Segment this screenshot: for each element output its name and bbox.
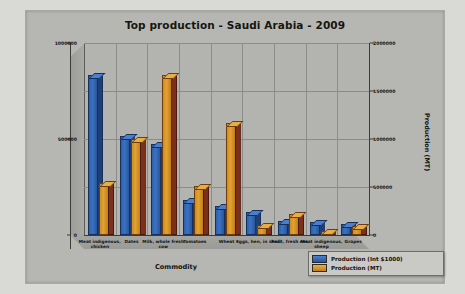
y-tick-label-left: 1000000 xyxy=(55,41,77,46)
bar[interactable] xyxy=(246,214,255,235)
bar[interactable] xyxy=(131,141,140,235)
bar[interactable] xyxy=(183,202,192,235)
bar-side-face xyxy=(108,183,114,235)
y-tick-mark-left xyxy=(67,235,71,236)
bar[interactable] xyxy=(289,216,298,235)
bar-top-face xyxy=(88,73,106,79)
y-tick-label-right: 1000000 xyxy=(373,137,395,142)
y-tick-label-right: 1500000 xyxy=(373,89,395,94)
bar-top-face xyxy=(289,212,307,218)
x-tick-label: Grapes xyxy=(330,239,376,244)
legend-label-series-1: Production (MT) xyxy=(331,265,382,271)
bar[interactable] xyxy=(99,185,108,235)
bar-side-face xyxy=(140,139,146,235)
bar[interactable] xyxy=(352,228,361,235)
bar-side-face xyxy=(171,75,177,235)
plot-area: 05000001000000 0500000100000015000002000… xyxy=(84,43,369,235)
bar-top-face xyxy=(246,210,264,216)
bar[interactable] xyxy=(257,227,266,235)
y-tick-label-right: 2000000 xyxy=(373,41,395,46)
legend-swatch-blue-icon xyxy=(312,255,327,263)
bar[interactable] xyxy=(215,208,224,235)
bar-side-face xyxy=(203,186,209,235)
y-axis-left-line xyxy=(70,43,71,249)
bar-group xyxy=(116,43,148,235)
y-tick-label-left: 500000 xyxy=(58,137,77,142)
legend-item-series-1[interactable]: Production (MT) xyxy=(312,264,440,272)
bar[interactable] xyxy=(120,138,129,235)
bar[interactable] xyxy=(341,226,350,235)
legend-item-series-0[interactable]: Production (Int $1000) xyxy=(312,255,440,263)
bar-group xyxy=(147,43,179,235)
bar-group xyxy=(84,43,116,235)
bar[interactable] xyxy=(310,224,319,235)
bar[interactable] xyxy=(226,125,235,235)
bar-top-face xyxy=(310,220,328,226)
bar-group xyxy=(337,43,369,235)
legend-label-series-0: Production (Int $1000) xyxy=(331,256,403,262)
x-axis-title: Commodity xyxy=(26,263,326,271)
x-axis-line xyxy=(84,235,370,236)
bar[interactable] xyxy=(194,188,203,235)
bar-group xyxy=(274,43,306,235)
plot-area-wrapper: Production (Int $1000) Production (MT) C… xyxy=(26,11,444,283)
y-tick-label-right: 0 xyxy=(373,233,376,238)
bar-top-face xyxy=(162,73,180,79)
y-axis-right-title: Production (MT) xyxy=(423,112,431,170)
screenshot-root: Top production - Saudi Arabia - 2009 Pro… xyxy=(0,0,465,294)
bar-group xyxy=(211,43,243,235)
bar[interactable] xyxy=(151,146,160,235)
bar-group xyxy=(179,43,211,235)
bar[interactable] xyxy=(162,77,171,235)
bar-group xyxy=(306,43,338,235)
bar-top-face xyxy=(226,121,244,127)
bar[interactable] xyxy=(278,223,287,235)
y-tick-label-left: 0 xyxy=(74,233,77,238)
bar[interactable] xyxy=(88,77,97,235)
bar-group xyxy=(242,43,274,235)
bar-side-face xyxy=(235,123,241,235)
chart-legend[interactable]: Production (Int $1000) Production (MT) xyxy=(308,251,444,276)
legend-swatch-orange-icon xyxy=(312,264,327,272)
y-tick-label-right: 500000 xyxy=(373,185,392,190)
bar[interactable] xyxy=(321,233,330,235)
bar-top-face xyxy=(194,184,212,190)
chart-panel: Top production - Saudi Arabia - 2009 Pro… xyxy=(25,10,445,284)
